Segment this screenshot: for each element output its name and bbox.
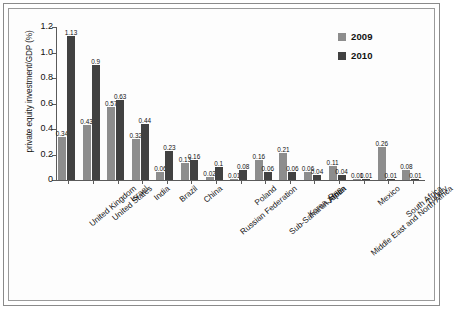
bar-chart: private equity investment/GDP (%) 00.20.…	[9, 9, 436, 302]
legend-item[interactable]: 2010	[338, 48, 373, 63]
y-tick-label: 0.6	[23, 98, 53, 108]
bar-2009[interactable]: 0.06	[156, 172, 164, 180]
bar-group: 0.010.08	[228, 27, 253, 180]
bar-value-label: 0.04	[335, 168, 347, 175]
figure-outer-frame: private equity investment/GDP (%) 00.20.…	[3, 3, 440, 306]
bar-value-label: 0.06	[286, 165, 298, 172]
bar-value-label: 0.04	[311, 168, 323, 175]
x-category-label: India	[152, 184, 171, 202]
bar-value-label: 0.16	[188, 153, 200, 160]
x-category-label: Japan	[326, 184, 349, 205]
x-category-label: China	[202, 184, 224, 205]
bar-value-label: 0.06	[262, 165, 274, 172]
bar-2009[interactable]: 0.57	[107, 107, 115, 180]
bar-2010[interactable]: 0.08	[239, 170, 247, 180]
legend-label: 2010	[351, 50, 373, 61]
bar-group: 0.320.44	[130, 27, 155, 180]
bar-group: 0.130.16	[179, 27, 204, 180]
bar-value-label: 0.01	[409, 172, 421, 179]
bar-2010[interactable]: 0.23	[165, 151, 173, 180]
bar-2009[interactable]: 0.32	[132, 139, 140, 180]
bar-2010[interactable]: 0.01	[362, 179, 370, 180]
bar-2010[interactable]: 0.44	[141, 124, 149, 180]
bar-value-label: 0.16	[253, 153, 265, 160]
y-tick: 0	[56, 180, 57, 181]
bar-2010[interactable]: 0.06	[288, 172, 296, 180]
bar-group: 0.060.04	[302, 27, 327, 180]
bar-value-label: 0.23	[163, 144, 175, 151]
bar-value-label: 0.1	[214, 160, 223, 167]
legend-swatch	[338, 52, 346, 60]
bar-group: 0.160.06	[253, 27, 278, 180]
bar-2010[interactable]: 1.13	[67, 36, 75, 180]
figure-inner-frame: private equity investment/GDP (%) 00.20.…	[8, 8, 435, 301]
bar-value-label: 0.08	[237, 163, 249, 170]
bar-2010[interactable]: 0.9	[92, 65, 100, 180]
y-tick-label: 0.4	[23, 123, 53, 133]
bar-2009[interactable]: 0.13	[181, 163, 189, 180]
y-tick-label: 1.2	[23, 21, 53, 31]
bar-value-label: 0.26	[376, 140, 388, 147]
legend-item[interactable]: 2009	[338, 29, 373, 44]
bar-value-label: 0.11	[327, 159, 339, 166]
bar-group: 0.570.63	[105, 27, 130, 180]
bar-value-label: 0.63	[114, 93, 126, 100]
bar-2010[interactable]: 0.01	[411, 179, 419, 180]
bar-2010[interactable]: 0.04	[313, 175, 321, 180]
bar-2010[interactable]: 0.1	[215, 167, 223, 180]
bar-value-label: 0.21	[277, 146, 289, 153]
bar-value-label: 0.01	[360, 172, 372, 179]
y-tick-label: 0.8	[23, 72, 53, 82]
legend-label: 2009	[351, 31, 373, 42]
bar-2010[interactable]: 0.63	[116, 100, 124, 180]
bar-2009[interactable]: 0.02	[206, 177, 214, 180]
bar-value-label: 0.01	[385, 172, 397, 179]
bar-2009[interactable]: 0.01	[353, 179, 361, 180]
bar-group: 0.080.01	[400, 27, 425, 180]
bar-2010[interactable]: 0.16	[190, 160, 198, 180]
bar-group: 0.430.9	[81, 27, 106, 180]
y-tick-label: 1.0	[23, 47, 53, 57]
bar-group: 0.260.01	[376, 27, 401, 180]
bar-value-label: 0.08	[400, 163, 412, 170]
bar-value-label: 0.9	[91, 58, 100, 65]
y-tick-label: 0.2	[23, 149, 53, 159]
legend-swatch	[338, 33, 346, 41]
bar-2010[interactable]: 0.04	[338, 175, 346, 180]
y-tick-label: 0	[23, 174, 53, 184]
bar-2009[interactable]: 0.43	[83, 125, 91, 180]
x-category-label: Brazil	[177, 184, 198, 204]
bar-group: 0.060.23	[154, 27, 179, 180]
bar-2009[interactable]: 0.34	[58, 137, 66, 180]
bar-group: 0.020.1	[204, 27, 229, 180]
legend: 20092010	[338, 29, 373, 67]
bar-value-label: 0.44	[139, 117, 151, 124]
x-category-label: Mexico	[376, 184, 402, 208]
bar-2010[interactable]: 0.06	[264, 172, 272, 180]
bar-group: 0.210.06	[277, 27, 302, 180]
y-axis-title: private equity investment/GDP (%)	[25, 17, 34, 167]
bar-group: 0.341.13	[56, 27, 81, 180]
bar-value-label: 1.13	[65, 29, 77, 36]
x-axis-category-labels: United KingdomUnited StatesIsraelIndiaBr…	[56, 184, 425, 294]
bar-2009[interactable]: 0.01	[230, 179, 238, 180]
bar-2010[interactable]: 0.01	[387, 179, 395, 180]
